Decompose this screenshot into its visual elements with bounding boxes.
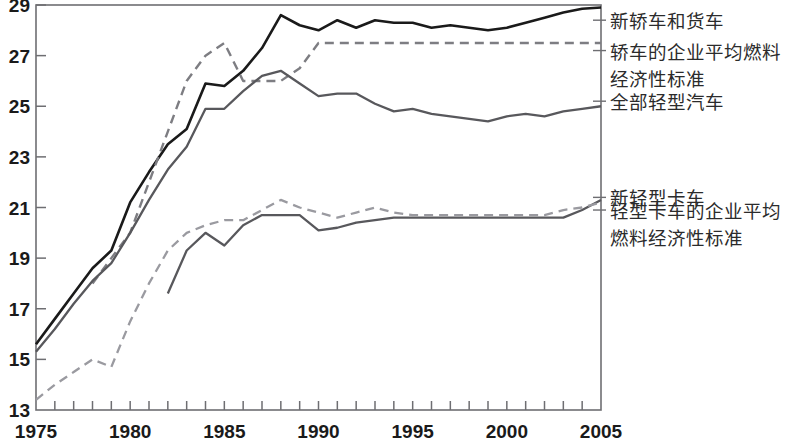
series-line — [36, 71, 601, 352]
y-tick-label: 21 — [9, 198, 31, 219]
plot-area-frame — [36, 5, 601, 410]
x-tick-label: 1995 — [392, 421, 435, 442]
annot-all-light-vehicles: 全部轻型汽车 — [610, 92, 724, 113]
series-line — [36, 8, 601, 345]
y-tick-label: 15 — [9, 349, 31, 370]
series-lines — [36, 8, 601, 400]
x-tick-label: 1980 — [109, 421, 151, 442]
chart-page: 131517192123252729 197519801985199019952… — [0, 0, 805, 442]
y-tick-label: 17 — [9, 299, 30, 320]
x-tick-label: 1985 — [203, 421, 246, 442]
y-tick-label: 19 — [9, 248, 30, 269]
y-tick-label: 23 — [9, 147, 30, 168]
y-tick-label: 13 — [9, 400, 30, 421]
annot-car-cafe: 经济性标准 — [610, 69, 705, 90]
series-line — [93, 43, 602, 283]
annot-new-cars-trucks: 新轿车和货车 — [610, 11, 724, 32]
annot-light-truck-cafe: 轻型卡车的企业平均 — [610, 201, 781, 222]
y-axis-tick-labels: 131517192123252729 — [9, 0, 31, 421]
y-tick-label: 29 — [9, 0, 30, 16]
x-tick-label: 2005 — [580, 421, 623, 442]
x-tick-label: 1990 — [297, 421, 339, 442]
y-tick-label: 25 — [9, 96, 31, 117]
annot-light-truck-cafe: 燃料经济性标准 — [610, 228, 743, 249]
x-axis-tick-labels: 1975198019851990199520002005 — [15, 421, 623, 442]
fuel-economy-line-chart: 131517192123252729 197519801985199019952… — [0, 0, 805, 442]
y-tick-label: 27 — [9, 46, 30, 67]
x-tick-label: 2000 — [486, 421, 528, 442]
x-tick-label: 1975 — [15, 421, 58, 442]
series-annotations: 新轿车和货车轿车的企业平均燃料经济性标准全部轻型汽车新轻型卡车轻型卡车的企业平均… — [593, 11, 781, 249]
annot-car-cafe: 轿车的企业平均燃料 — [610, 42, 781, 63]
